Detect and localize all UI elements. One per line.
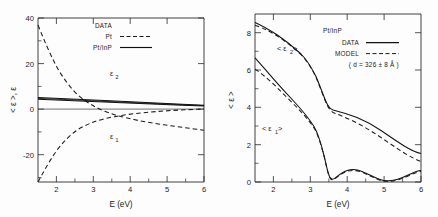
right-xtick-5: 5 <box>382 185 386 194</box>
right-xaxis-label: E (eV) <box>326 200 349 209</box>
left-chart-panel: 40 20 0 -20 2 <box>0 0 219 217</box>
right-xtick-3: 3 <box>308 185 312 194</box>
left-xtick-2: 2 <box>54 185 58 194</box>
svg-text:ε: ε <box>110 132 114 141</box>
left-ytick-40: 40 <box>26 14 34 23</box>
right-ytick-4: 4 <box>247 103 251 112</box>
figure-container: 40 20 0 -20 2 <box>0 0 438 217</box>
left-curve-pt-eps2 <box>38 25 204 130</box>
left-legend-label-ptinp: Pt/InP <box>93 44 112 51</box>
right-legend-sample: Pt/InP <box>323 27 342 34</box>
left-xaxis-label: E (eV) <box>109 200 132 209</box>
right-legend-label-data: DATA <box>342 39 360 46</box>
left-legend-label-pt: Pt <box>105 33 112 40</box>
left-ytick-0: 0 <box>30 105 34 114</box>
left-curvelabel-eps1: ε 1 <box>110 132 119 143</box>
right-curvelabel-eps2: < ε 2 > <box>277 44 297 55</box>
right-chart-panel: 0 2 4 6 8 <box>219 0 438 217</box>
svg-text:< ε >: < ε > <box>227 91 236 109</box>
svg-text:>: > <box>278 124 282 133</box>
right-axes <box>255 14 421 182</box>
svg-text:< ε: < ε <box>277 44 287 53</box>
left-curve-pt-eps1 <box>38 109 204 182</box>
left-y-ticks <box>38 18 204 178</box>
left-ytick-20: 20 <box>26 60 34 69</box>
right-curve-eps1-data <box>255 58 421 181</box>
left-xtick-6: 6 <box>202 185 206 194</box>
left-yaxis-label: < ε >, ε <box>9 87 18 113</box>
left-xtick-4: 4 <box>128 185 132 194</box>
left-xtick-5: 5 <box>165 185 169 194</box>
left-chart-svg: 40 20 0 -20 2 <box>0 0 219 217</box>
right-y-ticklabels: 0 2 4 6 8 <box>247 29 251 187</box>
right-yaxis-label: < ε > <box>227 91 236 109</box>
left-y-ticklabels: 40 20 0 -20 <box>23 14 34 160</box>
right-legend-label-model: MODEL <box>335 50 359 57</box>
right-legend: Pt/InP DATA MODEL ( d = 326 ± 8 Å ) <box>323 27 399 69</box>
left-legend-header: DATA <box>95 22 113 29</box>
svg-text:ε: ε <box>110 69 114 78</box>
left-ytick-neg20: -20 <box>23 151 34 160</box>
right-xtick-6: 6 <box>419 185 423 194</box>
left-x-ticklabels: 2 3 4 5 6 <box>54 185 206 194</box>
right-xtick-4: 4 <box>345 185 349 194</box>
right-ytick-6: 6 <box>247 66 251 75</box>
svg-text:2: 2 <box>116 74 119 80</box>
left-legend: DATA Pt Pt/InP <box>93 22 152 51</box>
right-xtick-2: 2 <box>271 185 275 194</box>
left-curvelabel-eps2: ε 2 <box>110 69 119 80</box>
right-chart-svg: 0 2 4 6 8 <box>219 0 438 217</box>
svg-text:< ε >, ε: < ε >, ε <box>9 87 18 113</box>
svg-text:1: 1 <box>116 137 119 143</box>
left-curve-ptinp-extra <box>38 98 204 105</box>
right-ytick-8: 8 <box>247 29 251 38</box>
right-ytick-2: 2 <box>247 141 251 150</box>
left-curve-ptinp-eps2 <box>38 98 204 106</box>
svg-text:< ε: < ε <box>262 124 272 133</box>
right-x-ticklabels: 2 3 4 5 6 <box>271 185 423 194</box>
right-ytick-0: 0 <box>247 178 251 187</box>
right-legend-thickness-note: ( d = 326 ± 8 Å ) <box>349 60 399 69</box>
left-xtick-3: 3 <box>91 185 95 194</box>
svg-text:>: > <box>293 44 297 53</box>
right-curvelabel-eps1: < ε 1 > <box>262 124 282 135</box>
